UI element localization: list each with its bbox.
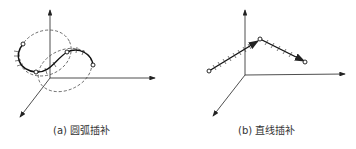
point-marker: [207, 69, 211, 73]
arc-path: [18, 44, 93, 72]
figure-b: [207, 10, 345, 116]
point-marker: [21, 42, 25, 46]
point-marker: [303, 60, 307, 64]
x-axis: [245, 74, 345, 75]
line-segment-1: [209, 41, 258, 71]
point-marker: [65, 50, 69, 54]
caption-a: (a) 圆弧插补: [53, 122, 110, 137]
figure-a: [11, 10, 155, 117]
caption-b: (b) 直线插补: [238, 122, 295, 137]
point-marker: [258, 37, 262, 41]
y-axis: [213, 75, 245, 116]
point-marker: [34, 70, 38, 74]
point-marker: [91, 63, 95, 67]
y-axis: [20, 78, 50, 117]
arc-circle-2: [31, 40, 99, 100]
arc-ticks: [14, 47, 84, 74]
